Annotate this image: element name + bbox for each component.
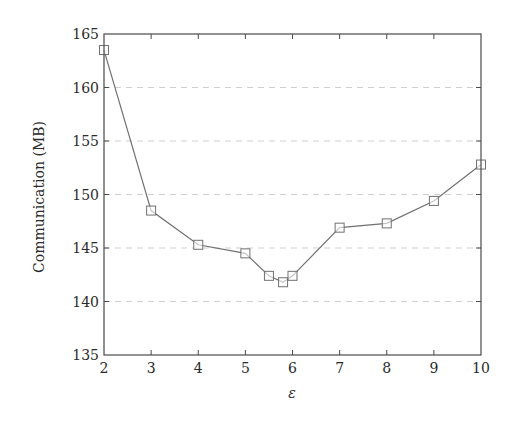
series-line	[104, 50, 481, 282]
line-chart: 2345678910 135140145150155160165	[0, 0, 514, 422]
y-axis-label: Communication (MB)	[31, 121, 47, 273]
y-tick-label: 160	[72, 80, 99, 96]
square-marker	[279, 278, 288, 287]
square-marker	[288, 271, 297, 280]
x-tick-label: 5	[241, 360, 250, 376]
x-tick-label: 7	[335, 360, 344, 376]
square-marker	[241, 249, 250, 258]
y-tick-label: 150	[72, 187, 99, 203]
square-marker	[264, 271, 273, 280]
y-tick-label: 155	[72, 133, 99, 149]
data-series	[100, 46, 486, 287]
y-tick-label: 145	[72, 240, 99, 256]
square-marker	[429, 196, 438, 205]
x-axis-label: ε	[288, 385, 296, 401]
x-tick-label: 3	[147, 360, 156, 376]
y-axis-ticks: 135140145150155160165	[72, 26, 481, 363]
square-marker	[194, 240, 203, 249]
x-tick-label: 6	[288, 360, 297, 376]
square-marker	[335, 223, 344, 232]
square-marker	[382, 219, 391, 228]
x-tick-label: 9	[429, 360, 438, 376]
y-tick-label: 135	[72, 347, 99, 363]
y-gridlines	[104, 88, 481, 302]
x-tick-label: 4	[194, 360, 203, 376]
x-tick-label: 2	[100, 360, 109, 376]
x-tick-label: 8	[382, 360, 391, 376]
y-tick-label: 165	[72, 26, 99, 42]
y-tick-label: 140	[72, 294, 99, 310]
x-tick-label: 10	[472, 360, 490, 376]
square-marker	[147, 206, 156, 215]
